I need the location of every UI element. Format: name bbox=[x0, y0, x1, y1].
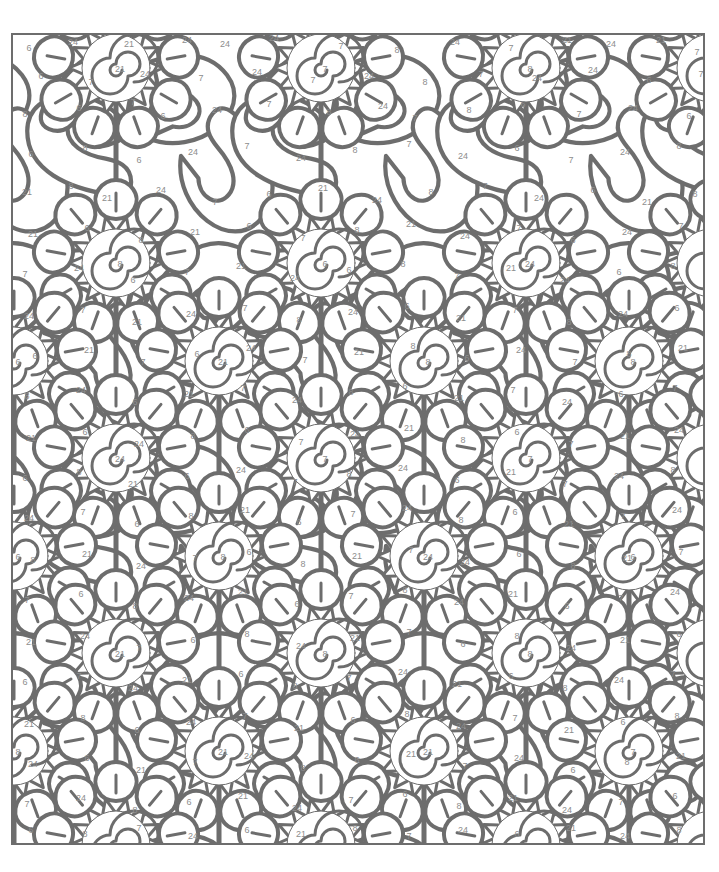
region-number-label: 24 bbox=[134, 439, 144, 449]
region-number-label: 7 bbox=[620, 511, 625, 521]
region-number-label: 7 bbox=[348, 795, 353, 805]
region-number-label: 24 bbox=[514, 753, 524, 763]
region-number-label: 6 bbox=[508, 671, 513, 681]
region-number-label: 21 bbox=[240, 505, 250, 515]
region-number-label: 8 bbox=[68, 181, 73, 191]
region-number-label: 24 bbox=[620, 831, 630, 841]
region-number-label: 7 bbox=[568, 439, 573, 449]
region-number-label: 7 bbox=[572, 357, 577, 367]
region-number-label: 7 bbox=[338, 41, 343, 51]
region-number-label: 24 bbox=[128, 683, 138, 693]
region-number-label: 24 bbox=[614, 471, 624, 481]
flower-center-number: 8 bbox=[117, 259, 122, 269]
region-number-label: 7 bbox=[510, 385, 515, 395]
region-number-label: 7 bbox=[512, 713, 517, 723]
region-number-label: 8 bbox=[676, 141, 681, 151]
region-number-label: 7 bbox=[678, 221, 683, 231]
region-number-label: 6 bbox=[38, 71, 43, 81]
region-number-label: 24 bbox=[186, 717, 196, 727]
region-number-label: 24 bbox=[80, 631, 90, 641]
region-number-label: 24 bbox=[68, 37, 78, 47]
region-number-label: 6 bbox=[672, 791, 677, 801]
region-number-label: 8 bbox=[514, 631, 519, 641]
region-number-label: 6 bbox=[132, 397, 137, 407]
region-number-label: 24 bbox=[460, 231, 470, 241]
region-number-label: 24 bbox=[290, 273, 300, 283]
region-number-label: 21 bbox=[236, 261, 246, 271]
region-number-label: 7 bbox=[130, 97, 135, 107]
region-number-label: 8 bbox=[352, 823, 357, 833]
region-number-label: 24 bbox=[566, 643, 576, 653]
region-number-label: 8 bbox=[292, 681, 297, 691]
region-number-label: 8 bbox=[244, 629, 249, 639]
region-number-label: 7 bbox=[406, 139, 411, 149]
region-number-label: 6 bbox=[238, 669, 243, 679]
flower-center-number: 8 bbox=[322, 649, 327, 659]
region-number-label: 8 bbox=[138, 235, 143, 245]
region-number-label: 6 bbox=[84, 753, 89, 763]
region-number-label: 21 bbox=[506, 263, 516, 273]
region-number-label: 24 bbox=[456, 721, 466, 731]
region-number-label: 24 bbox=[212, 105, 222, 115]
region-number-label: 21 bbox=[184, 389, 194, 399]
region-number-label: 6 bbox=[130, 275, 135, 285]
region-number-label: 24 bbox=[534, 193, 544, 203]
region-number-label: 6 bbox=[676, 629, 681, 639]
region-number-label: 21 bbox=[506, 467, 516, 477]
region-number-label: 21 bbox=[238, 587, 248, 597]
region-number-label: 24 bbox=[136, 561, 146, 571]
region-number-label: 8 bbox=[190, 431, 195, 441]
region-number-label: 21 bbox=[566, 823, 576, 833]
region-number-label: 7 bbox=[576, 109, 581, 119]
flower-center-number: 7 bbox=[630, 747, 635, 757]
region-number-label: 24 bbox=[532, 73, 542, 83]
region-number-label: 8 bbox=[402, 585, 407, 595]
region-number-label: 24 bbox=[188, 147, 198, 157]
region-number-label: 8 bbox=[394, 45, 399, 55]
region-number-label: 24 bbox=[292, 803, 302, 813]
flower-center-number: 7 bbox=[322, 64, 327, 74]
region-number-label: 7 bbox=[562, 479, 567, 489]
region-number-label: 8 bbox=[80, 713, 85, 723]
region-number-label: 21 bbox=[620, 431, 630, 441]
region-number-label: 24 bbox=[188, 831, 198, 841]
region-number-label: 24 bbox=[398, 463, 408, 473]
flower-center-number: 24 bbox=[423, 552, 433, 562]
region-number-label: 21 bbox=[678, 343, 688, 353]
region-number-label: 7 bbox=[618, 797, 623, 807]
region-number-label: 24 bbox=[348, 307, 358, 317]
region-number-label: 21 bbox=[456, 313, 466, 323]
region-number-label: 7 bbox=[406, 627, 411, 637]
region-number-label: 6 bbox=[82, 427, 87, 437]
region-number-label: 6 bbox=[520, 99, 525, 109]
region-number-label: 6 bbox=[32, 351, 37, 361]
region-number-label: 6 bbox=[570, 235, 575, 245]
region-number-label: 6 bbox=[402, 789, 407, 799]
region-number-label: 6 bbox=[514, 829, 519, 839]
region-number-label: 7 bbox=[348, 591, 353, 601]
region-number-label: 6 bbox=[686, 111, 691, 121]
region-number-label: 6 bbox=[194, 349, 199, 359]
region-number-label: 7 bbox=[454, 271, 459, 281]
region-number-label: 24 bbox=[28, 759, 38, 769]
region-number-label: 6 bbox=[246, 221, 251, 231]
region-number-label: 21 bbox=[26, 433, 36, 443]
region-number-label: 21 bbox=[26, 637, 36, 647]
region-number-label: 7 bbox=[266, 99, 271, 109]
region-number-label: 7 bbox=[310, 75, 315, 85]
region-number-label: 7 bbox=[244, 141, 249, 151]
region-number-label: 7 bbox=[292, 477, 297, 487]
region-number-label: 21 bbox=[564, 725, 574, 735]
region-number-label: 7 bbox=[482, 181, 487, 191]
region-number-label: 24 bbox=[252, 67, 262, 77]
flower-center-number: 8 bbox=[220, 552, 225, 562]
region-number-label: 21 bbox=[406, 749, 416, 759]
region-number-label: 7 bbox=[698, 69, 703, 79]
region-number-label: 6 bbox=[294, 599, 299, 609]
region-number-label: 21 bbox=[22, 187, 32, 197]
region-number-label: 21 bbox=[132, 317, 142, 327]
region-number-label: 8 bbox=[458, 515, 463, 525]
region-number-label: 24 bbox=[292, 395, 302, 405]
region-number-label: 7 bbox=[242, 711, 247, 721]
region-number-label: 21 bbox=[352, 551, 362, 561]
